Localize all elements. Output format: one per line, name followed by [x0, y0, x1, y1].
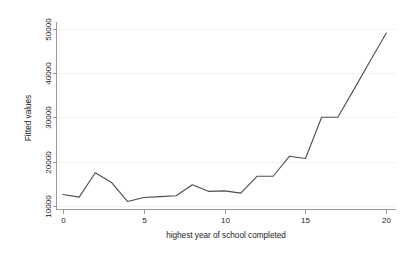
x-tick-label-15: 15 — [301, 216, 310, 225]
y-axis-title: Fitted values — [24, 95, 33, 141]
y-tick-label-10000: 10000 — [44, 195, 53, 218]
x-axis-title: highest year of school completed — [166, 231, 286, 240]
fitted-values-line-chart: 1000020000300004000050000 05101520 highe… — [0, 0, 415, 253]
x-tick-label-10: 10 — [221, 216, 230, 225]
y-tick-label-40000: 40000 — [44, 62, 53, 85]
x-tick-label-0: 0 — [61, 216, 66, 225]
y-tick-label-20000: 20000 — [44, 151, 53, 174]
x-tick-label-20: 20 — [382, 216, 391, 225]
chart-figure: 1000020000300004000050000 05101520 highe… — [0, 0, 415, 253]
y-tick-label-50000: 50000 — [44, 18, 53, 41]
y-tick-label-30000: 30000 — [44, 106, 53, 129]
x-tick-label-5: 5 — [142, 216, 147, 225]
